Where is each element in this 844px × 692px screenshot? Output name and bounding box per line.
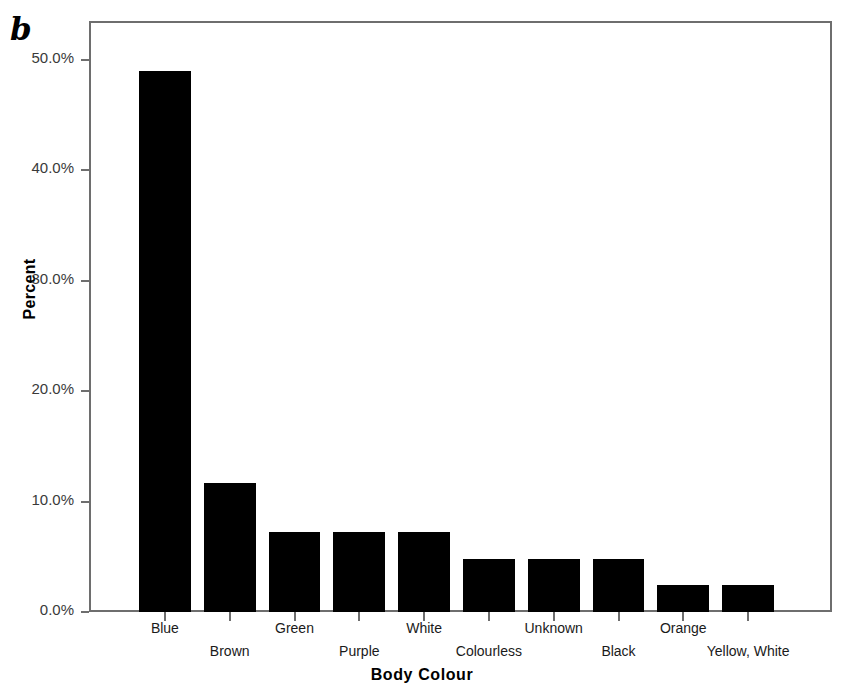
bar bbox=[398, 532, 450, 612]
y-tick-label: 30.0% bbox=[0, 270, 74, 287]
y-tick-mark bbox=[81, 169, 89, 171]
x-axis-title: Body Colour bbox=[0, 666, 844, 684]
bar bbox=[593, 559, 645, 612]
y-tick-mark bbox=[81, 390, 89, 392]
x-tick-label: Yellow, White bbox=[668, 643, 828, 659]
y-tick-label: 10.0% bbox=[0, 491, 74, 508]
y-tick-label: 0.0% bbox=[0, 601, 74, 618]
bar bbox=[722, 585, 774, 612]
bar bbox=[528, 559, 580, 612]
y-axis-title: Percent bbox=[21, 229, 39, 349]
figure-panel-b: b Percent 0.0%10.0%20.0%30.0%40.0%50.0% … bbox=[0, 0, 844, 692]
bar bbox=[333, 532, 385, 612]
bar bbox=[139, 71, 191, 612]
y-tick-mark bbox=[81, 611, 89, 613]
y-tick-label: 20.0% bbox=[0, 380, 74, 397]
x-tick-label: Orange bbox=[603, 620, 763, 636]
y-tick-mark bbox=[81, 59, 89, 61]
bar bbox=[657, 585, 709, 612]
y-tick-mark bbox=[81, 280, 89, 282]
y-tick-mark bbox=[81, 501, 89, 503]
bar bbox=[269, 532, 321, 612]
plot-area bbox=[89, 21, 832, 612]
panel-label: b bbox=[10, 14, 32, 45]
y-tick-label: 50.0% bbox=[0, 49, 74, 66]
bar bbox=[204, 483, 256, 612]
y-tick-label: 40.0% bbox=[0, 159, 74, 176]
bar bbox=[463, 559, 515, 612]
